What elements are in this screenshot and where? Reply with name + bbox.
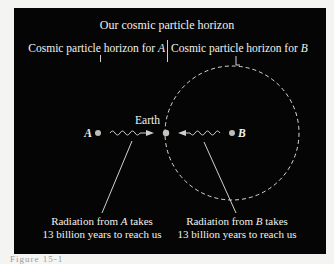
- our-horizon-label: Our cosmic particle horizon: [100, 18, 234, 32]
- point-b-label: B: [237, 127, 246, 139]
- horizon-a-label: Cosmic particle horizon for A: [28, 42, 166, 55]
- radiation-b-wave: [184, 131, 220, 135]
- horizon-b-label: Cosmic particle horizon for B: [171, 42, 308, 55]
- point-a-label: A: [83, 127, 92, 139]
- figure-caption: Figure 15-1: [10, 254, 63, 264]
- radiation-a-leader: [102, 141, 132, 213]
- point-b: [229, 130, 235, 136]
- radiation-b-leader: [204, 142, 236, 213]
- horizon-b-tick: [236, 56, 240, 65]
- arrow-head-a-icon: [146, 130, 154, 136]
- radiation-b-text-line2: 13 billion years to reach us: [178, 228, 297, 240]
- earth-point: [163, 130, 169, 136]
- arrow-head-b-icon: [178, 130, 186, 136]
- earth-label: Earth: [135, 114, 160, 126]
- point-a: [95, 130, 101, 136]
- radiation-a-text-line1: Radiation from A takes: [51, 215, 153, 227]
- radiation-b-text-line1: Radiation from B takes: [186, 215, 288, 227]
- radiation-a-wave: [110, 131, 148, 135]
- radiation-a-text-line2: 13 billion years to reach us: [43, 228, 162, 240]
